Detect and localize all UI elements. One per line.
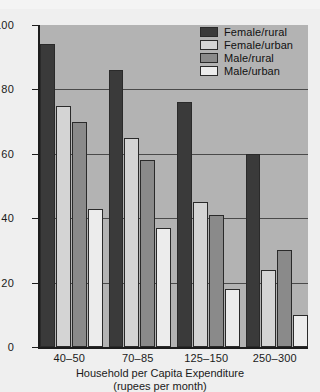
x-axis-tick-labels: 40–5070–85125–150250–300 — [38, 352, 306, 364]
y-tick-label-100: 100 — [0, 19, 14, 31]
bar-group — [40, 25, 103, 347]
y-tick-label-80: 80 — [0, 83, 14, 95]
legend-swatch-icon — [200, 53, 218, 63]
x-tick-label: 250–300 — [244, 352, 307, 364]
bar — [56, 106, 71, 348]
bar — [109, 70, 124, 347]
x-tick-label: 40–50 — [38, 352, 101, 364]
bar — [72, 122, 87, 347]
legend-item: Male/rural — [200, 52, 293, 64]
legend-label: Female/urban — [224, 39, 293, 51]
y-tick-label-20: 20 — [0, 277, 14, 289]
x-tick-label: 125–150 — [175, 352, 238, 364]
bar — [193, 202, 208, 347]
legend-swatch-icon — [200, 40, 218, 50]
bar — [293, 315, 308, 347]
bar — [88, 209, 103, 347]
bar — [156, 228, 171, 347]
legend-item: Female/urban — [200, 39, 293, 51]
y-tick-label-60: 60 — [0, 148, 14, 160]
bar — [177, 102, 192, 347]
legend-swatch-icon — [200, 27, 218, 37]
bar — [261, 270, 276, 347]
bar — [246, 154, 261, 347]
bar — [140, 160, 155, 347]
bar — [40, 44, 55, 347]
bar — [209, 215, 224, 347]
bar — [124, 138, 139, 347]
figure-top-margin — [0, 0, 320, 9]
y-tick-label-0: 0 — [0, 341, 14, 353]
bar-group — [109, 25, 172, 347]
x-axis-title: Household per Capita Expenditure (rupees… — [0, 367, 320, 392]
chart-legend: Female/ruralFemale/urbanMale/ruralMale/u… — [200, 26, 293, 77]
legend-label: Female/rural — [224, 26, 287, 38]
legend-label: Male/urban — [224, 65, 280, 77]
bar — [225, 289, 240, 347]
x-axis-title-main: Household per Capita Expenditure — [0, 367, 320, 380]
legend-label: Male/rural — [224, 52, 274, 64]
legend-item: Female/rural — [200, 26, 293, 38]
legend-item: Male/urban — [200, 65, 293, 77]
bar — [277, 250, 292, 347]
x-tick-label: 70–85 — [107, 352, 170, 364]
legend-swatch-icon — [200, 66, 218, 76]
x-axis-title-sub: (rupees per month) — [0, 380, 320, 392]
y-tick-label-40: 40 — [0, 212, 14, 224]
